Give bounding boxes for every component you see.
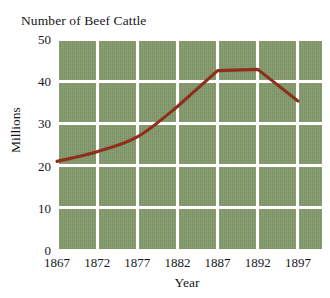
x-axis-title-text: Year — [175, 275, 200, 290]
y-axis-tick-labels: 50403020100 — [0, 0, 51, 298]
series-line-beef-cattle — [57, 69, 298, 161]
x-tick-label-1877: 1877 — [124, 256, 150, 269]
series-line-layer — [57, 39, 322, 250]
x-axis-tick-labels: 1867187218771882188718921897 — [0, 256, 330, 274]
x-tick-label-1882: 1882 — [164, 256, 190, 269]
x-tick-label-1872: 1872 — [84, 256, 110, 269]
beef-cattle-line-chart-figure: Number of Beef Cattle Millions 504030201… — [0, 0, 330, 298]
x-tick-label-1897: 1897 — [285, 256, 311, 269]
y-tick-label-30: 30 — [38, 117, 51, 130]
x-tick-label-1867: 1867 — [44, 256, 70, 269]
x-tick-label-1887: 1887 — [205, 256, 231, 269]
page-caption-fragment — [4, 290, 326, 298]
x-tick-label-1892: 1892 — [245, 256, 271, 269]
y-tick-label-40: 40 — [38, 75, 51, 88]
y-tick-label-10: 10 — [38, 202, 51, 215]
y-tick-label-50: 50 — [38, 33, 51, 46]
y-tick-label-20: 20 — [38, 160, 51, 173]
plot-area — [57, 39, 322, 250]
x-axis-title: Year — [0, 275, 330, 291]
